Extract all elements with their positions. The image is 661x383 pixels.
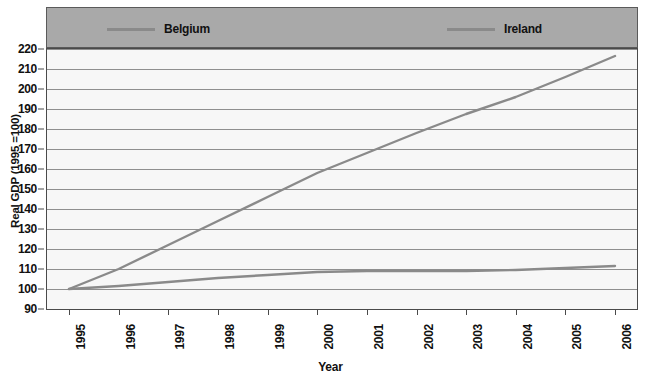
y-tick-mark (38, 189, 44, 190)
x-tick-mark (119, 310, 120, 315)
x-tick-label: 1997 (173, 324, 187, 350)
x-tick-mark (516, 310, 517, 315)
x-tick-mark (268, 310, 269, 315)
x-tick-mark (565, 310, 566, 315)
x-tick-label: 1999 (273, 324, 287, 350)
y-tick-mark (38, 229, 44, 230)
x-tick-label: 2005 (570, 324, 584, 350)
y-tick-mark (38, 169, 44, 170)
x-axis-title: Year (0, 360, 661, 374)
y-tick-label: 220 (18, 42, 37, 56)
chart-root: Belgium Ireland 901001101201301401501601… (0, 0, 661, 383)
x-tick-mark (466, 310, 467, 315)
x-tick-label: 2004 (521, 324, 535, 350)
x-tick-label: 2001 (372, 324, 386, 350)
y-tick-mark (38, 289, 44, 290)
y-tick-mark (38, 69, 44, 70)
x-tick-mark (615, 310, 616, 315)
y-tick-mark (38, 129, 44, 130)
legend-label-belgium: Belgium (164, 22, 210, 36)
y-tick-label: 100 (18, 282, 37, 296)
plot-area (46, 48, 638, 310)
legend-line-swatch-belgium (107, 28, 155, 31)
y-tick-label: 110 (19, 262, 37, 276)
x-tick-mark (367, 310, 368, 315)
x-tick-mark (69, 310, 70, 315)
legend-label-ireland: Ireland (504, 22, 542, 36)
legend-line-swatch-ireland (447, 28, 495, 31)
y-tick-mark (38, 49, 44, 50)
x-axis: 1995199619971998199920002001200220032004… (0, 310, 661, 318)
x-tick-mark (417, 310, 418, 315)
legend-item-belgium: Belgium (107, 22, 210, 36)
y-tick-mark (38, 109, 44, 110)
y-tick-mark (38, 89, 44, 90)
x-tick-label: 2000 (322, 324, 336, 350)
x-tick-label: 2006 (620, 324, 634, 350)
y-tick-mark (38, 269, 44, 270)
x-tick-mark (317, 310, 318, 315)
x-tick-label: 2003 (471, 324, 485, 350)
x-tick-mark (168, 310, 169, 315)
plot-canvas (47, 49, 637, 309)
x-tick-label: 1998 (223, 324, 237, 350)
x-tick-label: 1995 (74, 324, 88, 350)
y-tick-mark (38, 149, 44, 150)
x-tick-label: 2002 (422, 324, 436, 350)
legend-item-ireland: Ireland (447, 22, 542, 36)
x-tick-mark (218, 310, 219, 315)
chart-legend: Belgium Ireland (46, 7, 638, 48)
series-line-ireland (69, 56, 615, 289)
y-tick-label: 210 (18, 62, 37, 76)
x-tick-label: 1996 (124, 324, 138, 350)
y-tick-mark (38, 209, 44, 210)
y-axis: 9010011012013014015016017018019020021022… (0, 48, 44, 310)
y-tick-mark (38, 249, 44, 250)
y-axis-title: Real GDP (1995 =100) (9, 86, 21, 256)
